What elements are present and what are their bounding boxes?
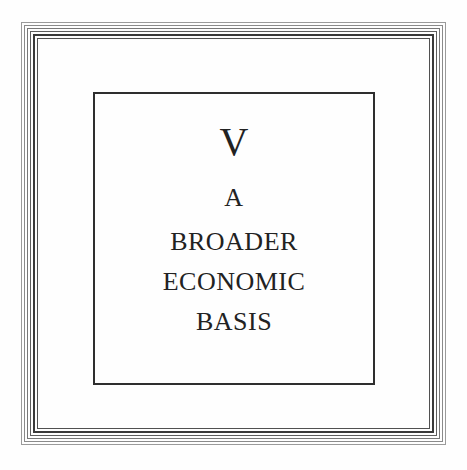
chapter-title-line: BASIS	[93, 309, 375, 335]
book-page: V A BROADER ECONOMIC BASIS	[0, 0, 467, 470]
chapter-title-line: A	[93, 185, 375, 211]
chapter-title-line: BROADER	[93, 229, 375, 255]
chapter-number: V	[93, 122, 375, 162]
chapter-title-block: V A BROADER ECONOMIC BASIS	[93, 92, 375, 385]
chapter-title-line: ECONOMIC	[93, 269, 375, 295]
